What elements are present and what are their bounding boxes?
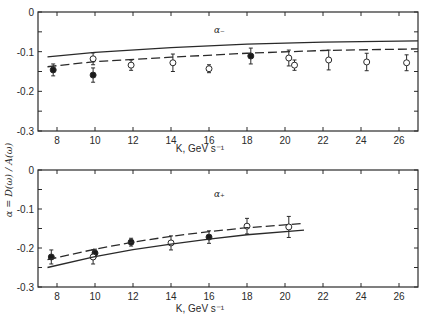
x-axis-label: K, GeV s⁻¹ (176, 143, 225, 154)
dashed-curve (48, 223, 305, 259)
x-tick-label: 18 (241, 135, 253, 146)
plot-frame (38, 12, 418, 131)
open-data-point (170, 60, 176, 66)
x-tick-label: 8 (54, 291, 60, 302)
x-tick-label: 18 (241, 291, 253, 302)
y-tick-label: -0.1 (17, 47, 35, 58)
y-tick-label: -0.1 (17, 204, 35, 215)
x-tick-label: 20 (279, 291, 291, 302)
x-tick-label: 26 (393, 135, 405, 146)
plot-frame (38, 170, 418, 287)
filled-data-point (50, 67, 56, 73)
x-tick-label: 10 (89, 135, 101, 146)
y-tick-label: 0 (28, 7, 34, 18)
bottom-panel: 81012141618202224260-0.1-0.2-0.3K, GeV s… (17, 165, 418, 314)
filled-data-point (90, 72, 96, 78)
figure: 81012141618202224260-0.1-0.2-0.3K, GeV s… (0, 0, 423, 319)
x-tick-label: 16 (203, 291, 215, 302)
series-annotation: α₋ (214, 25, 225, 35)
x-tick-label: 20 (279, 135, 291, 146)
filled-data-point (248, 53, 254, 59)
x-tick-label: 26 (393, 291, 405, 302)
y-axis-label: α = D(ω) / A(ω) (1, 135, 15, 225)
x-tick-label: 10 (89, 291, 101, 302)
y-tick-label: 0 (28, 165, 34, 176)
y-tick-label: -0.3 (17, 126, 35, 137)
x-tick-label: 24 (355, 135, 367, 146)
open-data-point (206, 66, 212, 72)
open-data-point (364, 59, 370, 65)
y-tick-label: -0.2 (17, 243, 35, 254)
x-tick-label: 12 (127, 135, 139, 146)
y-tick-label: -0.3 (17, 282, 35, 293)
x-tick-label: 12 (127, 291, 139, 302)
x-tick-label: 22 (317, 135, 329, 146)
top-panel: 81012141618202224260-0.1-0.2-0.3K, GeV s… (17, 7, 418, 154)
open-data-point (404, 60, 410, 66)
x-axis-label: K, GeV s⁻¹ (176, 303, 225, 314)
open-data-point (326, 57, 332, 63)
series-annotation: α₊ (214, 189, 225, 199)
x-tick-label: 8 (54, 135, 60, 146)
x-tick-label: 24 (355, 291, 367, 302)
x-tick-label: 22 (317, 291, 329, 302)
open-data-point (128, 62, 134, 68)
open-data-point (292, 62, 298, 68)
open-data-point (90, 56, 96, 62)
x-tick-label: 14 (165, 291, 177, 302)
open-data-point (286, 55, 292, 61)
y-tick-label: -0.2 (17, 86, 35, 97)
